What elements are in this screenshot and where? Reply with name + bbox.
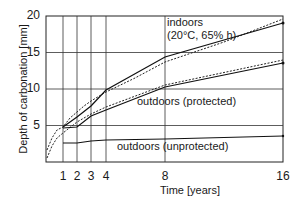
- x-axis-label: Time [years]: [130, 184, 250, 196]
- x-tick-16: 16: [273, 169, 293, 183]
- annotation-indoors-conditions: (20°C, 65% h): [167, 29, 236, 42]
- unprotected-end-marker: [282, 135, 284, 137]
- x-tick-4: 4: [96, 169, 116, 183]
- x-tick-8: 8: [155, 169, 175, 183]
- annotation-indoors: indoors: [167, 16, 203, 29]
- h-gridlines: [46, 53, 283, 126]
- protected-end-marker: [282, 62, 285, 65]
- annotation-outdoors-unprotected: outdoors (unprotected): [117, 140, 228, 153]
- indoors-end-marker: [282, 22, 285, 25]
- y-axis-label: Depth of carbonation [mm]: [17, 14, 29, 164]
- annotation-outdoors-protected: outdoors (protected): [137, 95, 236, 108]
